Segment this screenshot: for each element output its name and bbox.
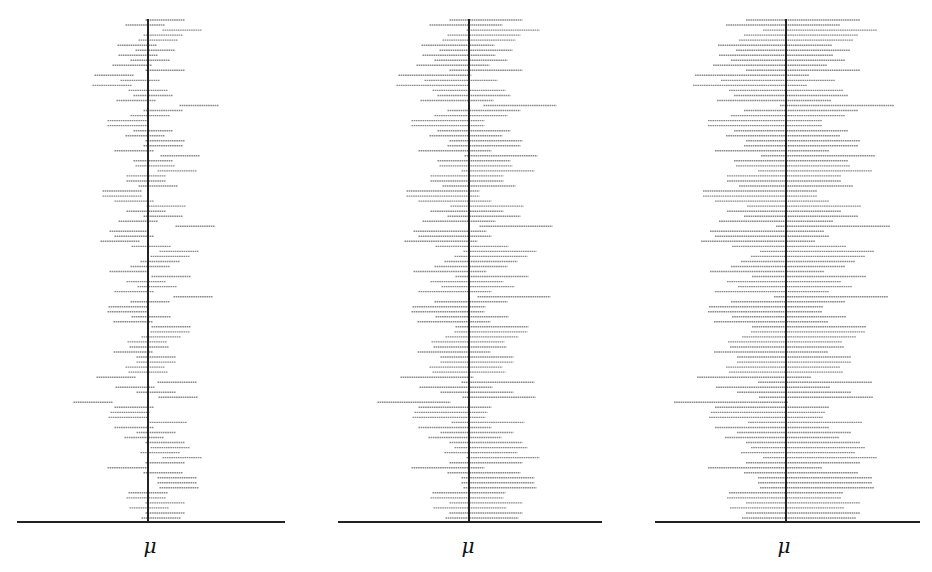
panel-3 [655, 19, 920, 522]
confidence-interval-figure [0, 0, 932, 572]
mu-label-panel-2: μ [462, 536, 475, 556]
mu-label-panel-1: μ [144, 536, 157, 556]
mu-label-panel-3: μ [778, 536, 791, 556]
panel-2 [338, 19, 602, 522]
panel-1 [17, 19, 285, 522]
